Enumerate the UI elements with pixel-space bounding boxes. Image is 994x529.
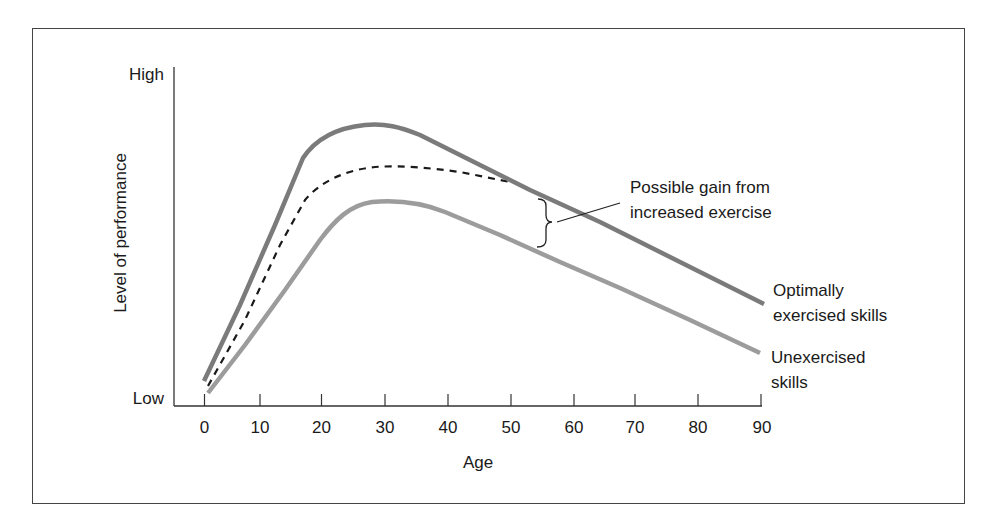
optimal-label-line2: exercised skills xyxy=(773,306,887,325)
chart-svg: 0 10 20 30 40 50 60 70 80 90 Age Level o… xyxy=(0,0,994,529)
x-tick-label: 80 xyxy=(689,418,708,437)
x-tick-label: 30 xyxy=(376,418,395,437)
x-axis-title: Age xyxy=(463,453,493,472)
x-tick-label: 20 xyxy=(312,418,331,437)
x-tick-label: 90 xyxy=(753,418,772,437)
x-tick-label: 10 xyxy=(251,418,270,437)
unexercised-label-line2: skills xyxy=(771,373,808,392)
optimal-label-line1: Optimally xyxy=(773,281,844,300)
x-tick-label: 50 xyxy=(502,418,521,437)
unexercised-label-line1: Unexercised xyxy=(771,348,866,367)
gain-brace-icon xyxy=(537,199,552,247)
x-tick-label: 40 xyxy=(439,418,458,437)
x-tick-label: 70 xyxy=(626,418,645,437)
y-label-low: Low xyxy=(133,389,165,408)
optimally-exercised-skills-curve xyxy=(204,124,764,381)
y-label-high: High xyxy=(129,65,164,84)
x-ticks xyxy=(205,394,762,406)
x-tick-label: 60 xyxy=(565,418,584,437)
unexercised-skills-curve xyxy=(208,201,760,393)
gain-annotation-line1: Possible gain from xyxy=(630,178,770,197)
y-axis-title: Level of performance xyxy=(111,153,130,313)
x-tick-label: 0 xyxy=(200,418,209,437)
gain-annotation-line2: increased exercise xyxy=(630,203,772,222)
